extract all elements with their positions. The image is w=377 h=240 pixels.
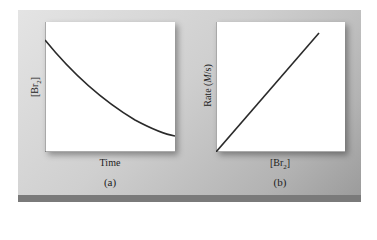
plot-a — [45, 22, 175, 152]
bottom-bar — [18, 195, 361, 202]
plot-a-xlabel: Time — [80, 157, 140, 168]
linear-line — [216, 22, 345, 152]
plot-b-xlabel: [Br2] — [250, 157, 310, 171]
plot-b — [216, 22, 345, 152]
plot-a-caption: (a) — [90, 176, 130, 188]
decay-curve — [45, 22, 175, 152]
plot-a-ylabel: [Br2] — [29, 67, 43, 107]
plot-b-caption: (b) — [260, 176, 300, 188]
plot-b-ylabel: Rate (M/s) — [202, 46, 213, 126]
